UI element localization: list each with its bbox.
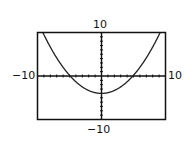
graph-window	[0, 0, 189, 146]
axes	[38, 33, 166, 120]
